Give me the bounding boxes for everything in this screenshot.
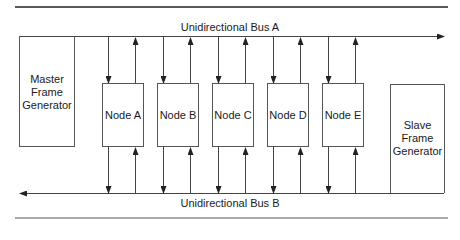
node-b-box: Node B [157,83,199,147]
node-c-box: Node C [212,83,254,147]
node-b-label: Node B [160,109,197,122]
slave-frame-generator-label: Slave Frame Generator [391,119,444,158]
bus-a-label: Unidirectional Bus A [160,21,300,34]
node-e-label: Node E [325,109,362,122]
node-d-label: Node D [269,109,306,122]
node-a-box: Node A [102,83,144,147]
master-frame-generator-label: Master Frame Generator [20,73,74,112]
node-e-box: Node E [322,83,364,147]
node-c-label: Node C [214,109,251,122]
node-d-box: Node D [267,83,309,147]
node-a-label: Node A [105,109,141,122]
bus-b-label: Unidirectional Bus B [160,197,300,210]
